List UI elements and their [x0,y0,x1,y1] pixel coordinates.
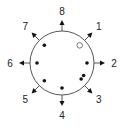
direction-label-6: 6 [7,58,13,69]
direction-label-4: 4 [59,110,65,121]
filled-dot [85,61,89,65]
direction-diagram: 12345678 [0,0,122,129]
arrow-head-icon-2 [100,61,105,66]
filled-dot [43,44,47,48]
direction-label-1: 1 [96,21,102,32]
filled-dot [82,74,86,78]
filled-dot [60,86,64,90]
open-dot [77,43,83,49]
direction-label-2: 2 [111,58,117,69]
direction-label-7: 7 [22,21,28,32]
arrow-head-icon-8 [60,20,65,25]
direction-label-5: 5 [22,94,28,105]
filled-dot [35,61,39,65]
arrow-head-icon-6 [19,61,24,66]
filled-dot [43,79,47,83]
direction-label-8: 8 [59,6,65,17]
circle-outline [30,31,94,95]
direction-label-3: 3 [96,94,102,105]
arrow-head-icon-4 [60,101,65,106]
filled-dot [79,77,83,81]
